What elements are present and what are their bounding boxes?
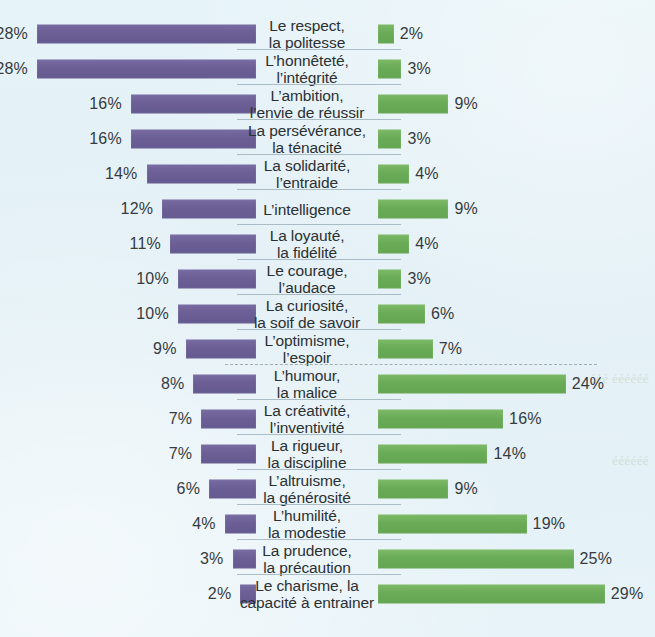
right-bar [378, 479, 448, 498]
category-label-line2: la politesse [237, 34, 377, 51]
chart-row: 16%La persévérance,la ténacité3% [0, 121, 655, 156]
right-bar [378, 304, 425, 323]
category-label-line2: l’inventivité [237, 419, 377, 436]
category-label-line2: la précaution [237, 559, 377, 576]
category-label: L’altruisme,la générosité [237, 472, 377, 506]
chart-row: 4%L’humilité,la modestie19% [0, 506, 655, 541]
category-label: L’honnêteté,l’intégrité [237, 52, 377, 86]
right-value-label: 3% [407, 60, 431, 78]
category-label: La persévérance,la ténacité [237, 122, 377, 156]
row-separator [237, 154, 401, 155]
right-bar [378, 374, 566, 393]
chart-row: 9%L’optimisme,l’espoir7% [0, 331, 655, 366]
category-label: L’intelligence [237, 200, 377, 217]
chart-row: 3%La prudence,la précaution25% [0, 541, 655, 576]
category-label-line2: la fidélité [237, 244, 377, 261]
row-separator [237, 119, 401, 120]
chart-page: ééé éééééé éééééé 28%Le respect,la polit… [0, 0, 655, 637]
category-label: La curiosité,la soif de savoir [237, 297, 377, 331]
category-label-line2: l’entraide [237, 174, 377, 191]
category-label: Le charisme, lacapacité à entrainer [218, 577, 396, 611]
chart-row: 14%La solidarité,l’entraide4% [0, 156, 655, 191]
left-value-label: 28% [0, 25, 28, 43]
right-bar [378, 514, 527, 533]
left-value-label: 28% [0, 60, 28, 78]
left-value-label: 9% [153, 340, 177, 358]
row-separator [237, 224, 401, 225]
category-label-line2: la ténacité [237, 139, 377, 156]
category-label-line1: Le charisme, la [218, 577, 396, 594]
category-label-line1: L’intelligence [237, 200, 377, 217]
chart-row: 28%L’honnêteté,l’intégrité3% [0, 51, 655, 86]
left-value-label: 10% [136, 305, 169, 323]
category-label-line1: L’humilité, [237, 507, 377, 524]
category-label-line2: l’espoir [237, 349, 377, 366]
category-label-line1: La curiosité, [237, 297, 377, 314]
left-value-label: 3% [200, 550, 224, 568]
category-label-line2: l’audace [237, 279, 377, 296]
right-value-label: 9% [454, 480, 478, 498]
category-label: Le respect,la politesse [237, 17, 377, 51]
category-label-line1: La rigueur, [237, 437, 377, 454]
right-value-label: 24% [572, 375, 605, 393]
right-value-label: 25% [580, 550, 613, 568]
right-value-label: 14% [493, 445, 526, 463]
left-value-label: 16% [89, 95, 122, 113]
chart-row: 10%Le courage,l’audace3% [0, 261, 655, 296]
chart-row: 28%Le respect,la politesse2% [0, 16, 655, 51]
chart-row: 6%L’altruisme,la générosité9% [0, 471, 655, 506]
left-value-label: 16% [89, 130, 122, 148]
category-label-line2: l’envie de réussir [237, 104, 377, 121]
category-label: L’ambition,l’envie de réussir [237, 87, 377, 121]
category-label-line1: La solidarité, [237, 157, 377, 174]
chart-row: 2%Le charisme, lacapacité à entrainer29% [0, 576, 655, 611]
category-label-line1: Le courage, [237, 262, 377, 279]
row-separator [237, 189, 401, 190]
category-label-line1: L’optimisme, [237, 332, 377, 349]
category-label-line2: la malice [237, 384, 377, 401]
right-value-label: 4% [415, 165, 439, 183]
left-bar [37, 24, 256, 43]
left-value-label: 8% [161, 375, 185, 393]
chart-row: 10%La curiosité,la soif de savoir6% [0, 296, 655, 331]
left-value-label: 7% [169, 445, 193, 463]
right-bar [378, 549, 574, 568]
left-value-label: 6% [177, 480, 201, 498]
right-value-label: 16% [509, 410, 542, 428]
category-label-line1: La prudence, [237, 542, 377, 559]
right-bar [378, 234, 409, 253]
category-label: La prudence,la précaution [237, 542, 377, 576]
row-separator [237, 294, 401, 295]
right-bar [378, 24, 394, 43]
left-value-label: 14% [105, 165, 138, 183]
category-label-line1: L’honnêteté, [237, 52, 377, 69]
category-label: La rigueur,la discipline [237, 437, 377, 471]
category-label-line2: capacité à entrainer [218, 594, 396, 611]
right-value-label: 29% [611, 585, 644, 603]
right-value-label: 6% [431, 305, 455, 323]
chart-row: 12%L’intelligence9% [0, 191, 655, 226]
right-value-label: 4% [415, 235, 439, 253]
row-separator [237, 84, 401, 85]
category-label: La créativité,l’inventivité [237, 402, 377, 436]
category-label: La loyauté,la fidélité [237, 227, 377, 261]
right-bar [378, 129, 401, 148]
category-label: L’optimisme,l’espoir [237, 332, 377, 366]
category-label: L’humour,la malice [237, 367, 377, 401]
category-label-line2: l’intégrité [237, 69, 377, 86]
category-label-line1: L’ambition, [237, 87, 377, 104]
diverging-bar-chart: 28%Le respect,la politesse2%28%L’honnête… [0, 0, 655, 637]
chart-row: 7%La rigueur,la discipline14% [0, 436, 655, 471]
category-label-line2: la discipline [237, 454, 377, 471]
row-separator [237, 504, 401, 505]
row-separator [237, 49, 401, 50]
left-bar [37, 59, 256, 78]
row-separator [237, 539, 401, 540]
category-label-line1: L’humour, [237, 367, 377, 384]
right-value-label: 2% [400, 25, 424, 43]
right-bar [378, 199, 448, 218]
right-bar [378, 269, 401, 288]
category-label-line2: la soif de savoir [237, 314, 377, 331]
left-value-label: 7% [169, 410, 193, 428]
category-label-line1: Le respect, [237, 17, 377, 34]
